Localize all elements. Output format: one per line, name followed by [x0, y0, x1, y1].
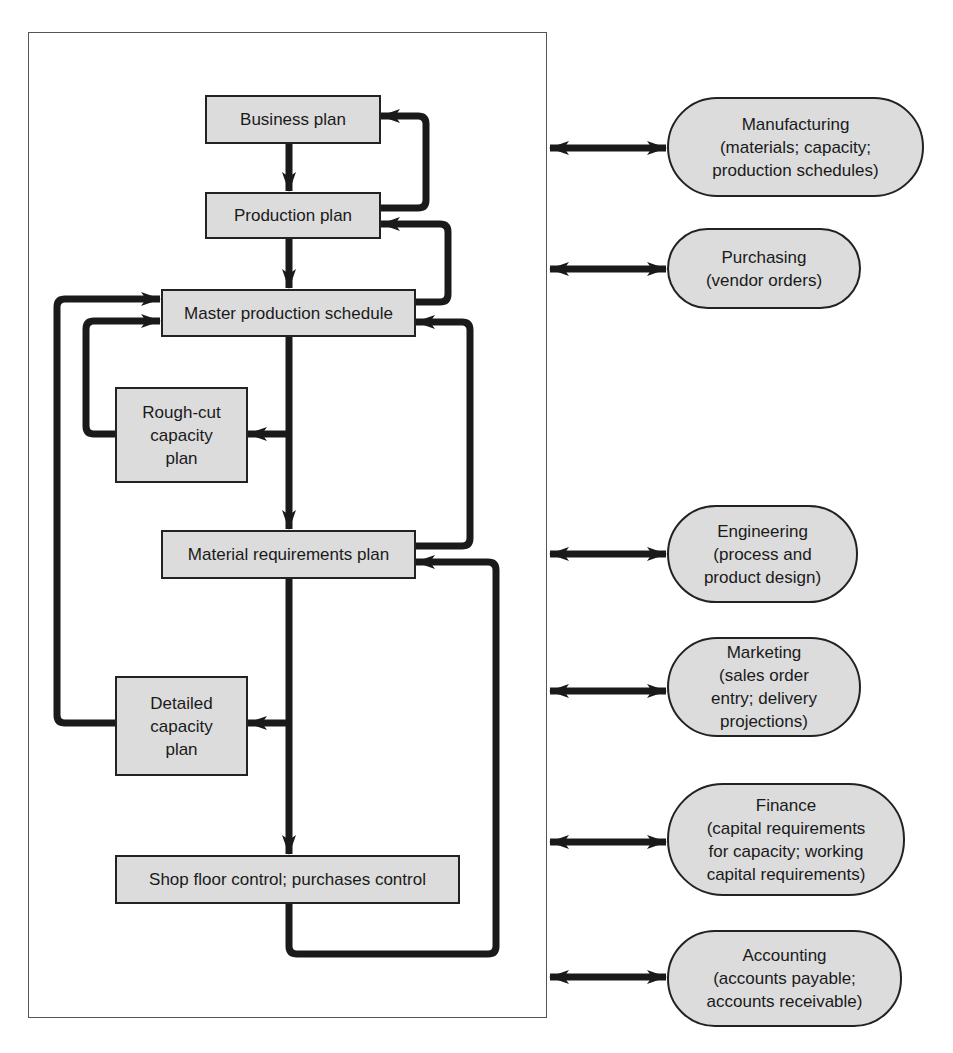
engineering-detail-line: product design): [704, 566, 821, 589]
purchasing-title: Purchasing: [721, 246, 806, 269]
finance-oval: Finance (capital requirements for capaci…: [667, 783, 905, 896]
rough-cut-capacity-plan-box: Rough-cut capacity plan: [115, 387, 248, 483]
finance-title: Finance: [756, 794, 816, 817]
purchasing-oval: Purchasing (vendor orders): [667, 228, 861, 309]
engineering-title: Engineering: [717, 520, 808, 543]
marketing-detail-line: (sales order: [719, 664, 809, 687]
detailed-capacity-plan-box: Detailed capacity plan: [115, 676, 248, 776]
accounting-detail-line: (accounts payable;: [713, 967, 856, 990]
finance-detail-line: (capital requirements: [707, 817, 866, 840]
marketing-detail-line: entry; delivery: [711, 687, 817, 710]
accounting-title: Accounting: [742, 944, 826, 967]
manufacturing-oval: Manufacturing (materials; capacity; prod…: [667, 97, 924, 197]
business-plan-box: Business plan: [205, 95, 381, 144]
accounting-detail-line: accounts receivable): [707, 990, 863, 1013]
material-requirements-plan-box: Material requirements plan: [161, 530, 416, 579]
diagram-canvas: Business plan Production plan Master pro…: [0, 0, 953, 1053]
arrow-mrp-to-mps-feedback: [415, 322, 470, 546]
accounting-oval: Accounting (accounts payable; accounts r…: [667, 930, 902, 1027]
finance-detail-line: for capacity; working: [709, 840, 864, 863]
marketing-title: Marketing: [727, 641, 802, 664]
engineering-detail-line: (process and: [713, 543, 811, 566]
engineering-oval: Engineering (process and product design): [667, 505, 858, 603]
manufacturing-detail-line: (materials; capacity;: [720, 136, 871, 159]
marketing-oval: Marketing (sales order entry; delivery p…: [667, 637, 861, 737]
arrow-detailed-to-mps-feedback: [57, 299, 160, 723]
production-plan-box: Production plan: [205, 192, 381, 239]
shop-floor-control-box: Shop floor control; purchases control: [115, 855, 460, 904]
master-production-schedule-box: Master production schedule: [161, 289, 416, 337]
marketing-detail-line: projections): [720, 710, 808, 733]
manufacturing-title: Manufacturing: [742, 113, 850, 136]
manufacturing-detail-line: production schedules): [712, 159, 878, 182]
arrow-production-to-business-feedback: [380, 116, 426, 208]
purchasing-detail-line: (vendor orders): [706, 269, 822, 292]
finance-detail-line: capital requirements): [707, 863, 866, 886]
